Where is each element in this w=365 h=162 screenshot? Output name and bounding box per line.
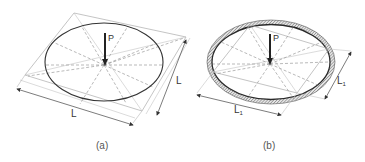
caption-b: (b) bbox=[263, 140, 275, 151]
panel-b: P L1 L1 bbox=[197, 20, 351, 116]
caption-a: (a) bbox=[96, 140, 108, 151]
load-label: P bbox=[273, 33, 279, 43]
dimension-line-bottom bbox=[17, 89, 133, 125]
dimension-label-right: L1 bbox=[337, 75, 347, 87]
dimension-label-right-subscript: 1 bbox=[343, 81, 347, 87]
panel-a: P L L bbox=[17, 13, 190, 125]
dimension-label-bottom: L bbox=[71, 108, 77, 119]
dimension-label-right: L bbox=[176, 75, 182, 86]
plate-load-diagram: P L L bbox=[0, 0, 365, 162]
extension-line bbox=[133, 111, 142, 123]
load-label: P bbox=[108, 33, 114, 43]
dimension-label-bottom-subscript: 1 bbox=[240, 110, 244, 116]
